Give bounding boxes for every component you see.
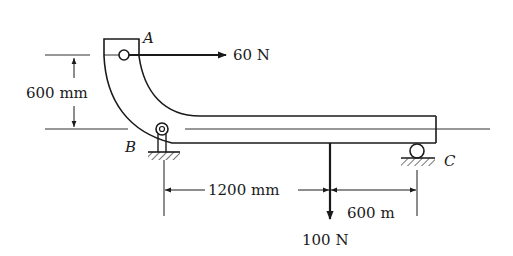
dimension-label-600mm: 600 mm xyxy=(26,84,88,102)
diagram-canvas: A 60 N 600 mm B C 100 N 1200 mm 600 m xyxy=(0,0,513,256)
label-b: B xyxy=(124,138,136,156)
label-a: A xyxy=(141,29,154,47)
inner-curve xyxy=(139,56,436,116)
force-label-60n: 60 N xyxy=(233,46,270,64)
dimension-label-600m: 600 m xyxy=(347,204,395,222)
roller-support-c-icon xyxy=(401,144,435,166)
pin-a-icon xyxy=(119,50,129,60)
dimension-600mm-vertical: 600 mm xyxy=(26,58,88,127)
label-c: C xyxy=(444,152,456,170)
dimension-label-1200mm: 1200 mm xyxy=(208,181,279,199)
force-label-100n: 100 N xyxy=(302,231,349,249)
outer-curve xyxy=(104,56,436,143)
